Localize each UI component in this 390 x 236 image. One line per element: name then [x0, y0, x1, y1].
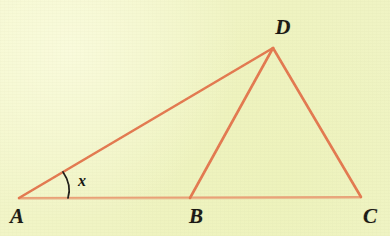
vertex-label-b: B [189, 206, 203, 227]
geometry-figure-canvas: A B C D x [0, 0, 390, 236]
segment-ad [19, 48, 273, 198]
vertex-label-d: D [275, 17, 290, 38]
vertex-label-a: A [10, 206, 24, 227]
angle-label-x: x [78, 173, 86, 189]
vertex-label-c: C [363, 206, 377, 227]
segment-dc [273, 48, 361, 197]
segment-bd [190, 48, 273, 198]
angle-arc-at-a [63, 172, 69, 198]
geometry-figure-svg [0, 0, 390, 236]
